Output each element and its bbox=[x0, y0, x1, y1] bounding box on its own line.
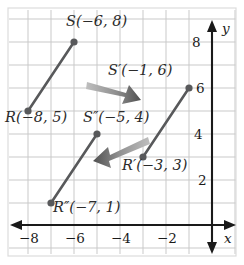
x-tick-label--6: −6 bbox=[65, 232, 85, 246]
point-S bbox=[70, 38, 77, 45]
point-label-R-prime: R′(−3, 3) bbox=[122, 158, 187, 173]
x-tick-label--4: −4 bbox=[111, 232, 131, 246]
point-S-double-prime bbox=[93, 130, 100, 137]
x-tick-label--8: −8 bbox=[19, 232, 39, 246]
point-S-prime bbox=[185, 84, 192, 91]
point-label-S-prime: S′(−1, 6) bbox=[108, 63, 172, 78]
y-tick-label-6: 6 bbox=[196, 82, 205, 96]
x-tick-label--2: −2 bbox=[157, 232, 177, 246]
x-axis-name: x bbox=[224, 232, 232, 246]
plot-canvas bbox=[0, 0, 244, 265]
point-label-R-double-prime: R″(−7, 1) bbox=[53, 200, 120, 215]
point-label-R: R(−8, 5) bbox=[5, 110, 67, 125]
point-label-S: S(−6, 8) bbox=[66, 14, 127, 29]
y-tick-label-4: 4 bbox=[194, 128, 203, 142]
coordinate-plane-figure: S(−6, 8) R(−8, 5) S′(−1, 6) S″(−5, 4) R′… bbox=[0, 0, 244, 265]
y-axis-name: y bbox=[222, 22, 230, 36]
point-label-S-double-prime: S″(−5, 4) bbox=[83, 110, 149, 125]
y-tick-label-8: 8 bbox=[192, 36, 201, 50]
y-tick-label-2: 2 bbox=[198, 174, 207, 188]
